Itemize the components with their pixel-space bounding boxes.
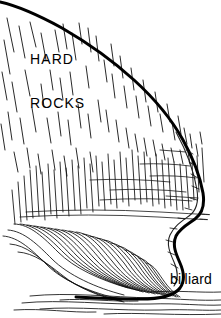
label-billiard: billiard	[170, 271, 212, 287]
label-rocks: ROCKS	[30, 95, 85, 111]
label-hard: HARD	[30, 51, 74, 67]
illustration-canvas: HARD ROCKS billiard	[0, 0, 221, 318]
